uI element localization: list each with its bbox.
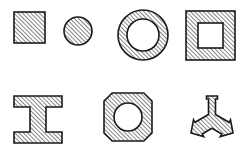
figure-canvas — [0, 0, 250, 148]
cross-section-figure — [0, 0, 250, 148]
shape-solid-square — [14, 12, 45, 43]
shape-solid-circle — [64, 17, 92, 45]
solid-square-hatch-fill — [14, 12, 45, 43]
